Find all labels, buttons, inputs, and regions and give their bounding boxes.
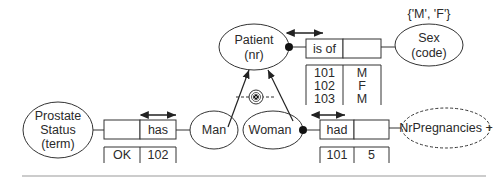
exclusive-or-constraint-icon[interactable] (249, 90, 263, 104)
prostate-status-ref-mode: (term) (41, 137, 74, 151)
reading-is-of: is of (313, 42, 336, 56)
patient-ellipse (219, 24, 289, 70)
woman-label: Woman (249, 123, 292, 137)
entity-sex[interactable]: {'M', 'F'} Sex (code) (395, 7, 463, 66)
entity-man[interactable]: Man (190, 111, 238, 149)
entity-patient[interactable]: Patient (nr) (219, 24, 289, 70)
population-cell: M (357, 66, 367, 80)
population-cell: M (357, 92, 367, 106)
value-type-nr-pregnancies[interactable]: NrPregnancies + (399, 108, 492, 148)
patient-label: Patient (235, 33, 274, 47)
subtype-arrow-woman (268, 70, 293, 121)
nr-pregnancies-label: NrPregnancies + (399, 121, 492, 135)
prostate-status-label-1: Prostate (35, 109, 82, 123)
fact-type-man-has-prostate-status[interactable]: has OK 102 (104, 115, 176, 163)
reading-has: has (148, 123, 168, 137)
role-box-nr-pregnancies[interactable] (354, 120, 389, 139)
population-cell: OK (113, 148, 132, 162)
population-cell: 103 (314, 92, 335, 106)
entity-woman[interactable]: Woman (243, 111, 303, 149)
population-cell: 5 (368, 148, 375, 162)
mandatory-dot-icon (299, 126, 307, 134)
mandatory-dot-icon (285, 43, 293, 51)
population-cell: 102 (148, 148, 169, 162)
population-cell: F (358, 79, 366, 93)
reading-had: had (327, 123, 348, 137)
population-cell: 101 (314, 66, 335, 80)
subtype-arrow-man (228, 70, 249, 127)
entity-prostate-status[interactable]: Prostate Status (term) (23, 102, 93, 158)
role-box-sex[interactable] (343, 39, 381, 58)
fact-type-woman-had-pregnancies[interactable]: had 101 5 (312, 115, 389, 163)
population-cell: 102 (314, 79, 335, 93)
orm-diagram: Patient (nr) is of 101 M 102 F 103 M {'M… (0, 0, 499, 178)
patient-ref-mode: (nr) (244, 48, 263, 62)
value-constraint: {'M', 'F'} (408, 7, 451, 21)
population-cell: 101 (327, 148, 348, 162)
sex-label: Sex (418, 31, 440, 45)
role-box-prostate[interactable] (104, 120, 140, 139)
prostate-status-label-2: Status (40, 123, 75, 137)
sex-ref-mode: (code) (411, 46, 446, 60)
fact-type-patient-sex[interactable]: is of 101 M 102 F 103 M (287, 33, 381, 106)
man-label: Man (202, 123, 226, 137)
